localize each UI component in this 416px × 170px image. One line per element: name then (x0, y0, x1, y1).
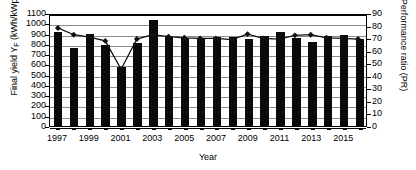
x-axis-tick-label: 2001 (104, 133, 138, 144)
line-marker (213, 35, 219, 41)
line-marker (260, 35, 266, 41)
y-axis-left-tick-label: 900 (6, 30, 46, 39)
x-axis-tick-mark (136, 129, 140, 130)
x-axis-tick-mark (311, 129, 315, 130)
y-axis-right-tick-label: 40 (372, 72, 412, 81)
x-axis-title: Year (0, 152, 416, 162)
x-axis-tick-mark (247, 129, 251, 130)
x-axis-tick-mark (215, 129, 219, 130)
line-marker (245, 31, 251, 37)
y-axis-right-tick-label: 20 (372, 97, 412, 106)
y-axis-right-tick-mark (367, 114, 371, 115)
x-axis-tick-mark (231, 129, 235, 130)
y-axis-left-tick-label: 800 (6, 40, 46, 49)
x-axis-tick-mark (120, 129, 124, 130)
line-marker (118, 66, 124, 72)
y-axis-left-tick-label: 0 (6, 122, 46, 131)
line-marker (166, 34, 172, 40)
line-marker (55, 25, 61, 31)
y-axis-right-tick-label: 70 (372, 34, 412, 43)
y-axis-right-tick-mark (367, 89, 371, 90)
line-marker (102, 38, 108, 44)
y-axis-right-tick-mark (367, 64, 371, 65)
line-marker (324, 35, 330, 41)
y-axis-left-tick-label: 500 (6, 71, 46, 80)
x-axis-tick-mark (359, 129, 363, 130)
x-axis-tick-label: 2013 (294, 133, 328, 144)
x-axis-tick-mark (88, 129, 92, 130)
x-axis-tick-mark (279, 129, 283, 130)
x-axis-tick-label: 2007 (199, 133, 233, 144)
y-axis-right-tick-mark (367, 52, 371, 53)
y-axis-left-tick-label: 1100 (6, 9, 46, 18)
line-marker (292, 32, 298, 38)
y-axis-left-tick-label: 400 (6, 81, 46, 90)
x-axis-tick-mark (263, 129, 267, 130)
line-marker (276, 36, 282, 42)
x-axis-tick-mark (200, 129, 204, 130)
line-marker (339, 35, 345, 41)
line-marker (355, 36, 361, 42)
y-axis-left-tick-label: 100 (6, 112, 46, 121)
plot-area (49, 14, 367, 127)
y-axis-left-tick-label: 200 (6, 101, 46, 110)
x-axis-tick-label: 2005 (167, 133, 201, 144)
y-axis-right-tick-label: 50 (372, 59, 412, 68)
line-marker (71, 32, 77, 38)
x-axis-tick-mark (56, 129, 60, 130)
y-axis-left-tick-label: 300 (6, 91, 46, 100)
y-axis-right-tick-label: 90 (372, 9, 412, 18)
y-axis-right-tick-label: 30 (372, 84, 412, 93)
x-axis-tick-mark (343, 129, 347, 130)
x-axis-tick-mark (295, 129, 299, 130)
y-axis-left-tick-mark (45, 127, 49, 128)
line-marker (197, 35, 203, 41)
x-axis-tick-label: 2009 (231, 133, 265, 144)
x-axis-tick-mark (168, 129, 172, 130)
y-axis-right-tick-label: 10 (372, 109, 412, 118)
y-axis-left-tick-label: 600 (6, 60, 46, 69)
x-axis-tick-mark (152, 129, 156, 130)
y-axis-right-tick-mark (367, 102, 371, 103)
line-marker (87, 34, 93, 40)
line-series (50, 15, 366, 126)
y-axis-right-tick-label: 0 (372, 122, 412, 131)
gridline (50, 128, 366, 129)
x-axis-tick-label: 2003 (135, 133, 169, 144)
y-axis-left-tick-label: 1000 (6, 19, 46, 28)
x-axis-tick-mark (327, 129, 331, 130)
line-marker (308, 32, 314, 38)
line-marker (181, 35, 187, 41)
chart-figure: Final yield YF (kWh/kWp) Performance rat… (0, 0, 416, 170)
y-axis-right-tick-mark (367, 77, 371, 78)
line-marker (134, 36, 140, 42)
y-axis-right-tick-mark (367, 27, 371, 28)
y-axis-right-tick-label: 80 (372, 22, 412, 31)
x-axis-tick-label: 2011 (263, 133, 297, 144)
x-axis-tick-label: 2015 (326, 133, 360, 144)
y-axis-right-tick-mark (367, 14, 371, 15)
y-axis-right-tick-label: 60 (372, 47, 412, 56)
line-marker (229, 37, 235, 43)
x-axis-tick-mark (72, 129, 76, 130)
line-marker (150, 32, 156, 38)
x-axis-tick-mark (184, 129, 188, 130)
x-axis-tick-mark (104, 129, 108, 130)
y-axis-right-tick-mark (367, 39, 371, 40)
y-axis-left-tick-label: 700 (6, 50, 46, 59)
x-axis-tick-label: 1999 (72, 133, 106, 144)
x-axis-tick-label: 1997 (40, 133, 74, 144)
y-axis-right-tick-mark (367, 127, 371, 128)
